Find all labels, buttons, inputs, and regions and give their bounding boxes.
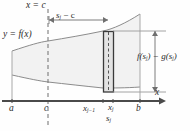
tick-label-x-j: xj <box>108 103 114 113</box>
area-between-curves-figure: x = c y = f(x) sj − c f(sj) − g(sj) x a … <box>0 0 190 131</box>
tick-label-s-j: sj <box>106 114 111 124</box>
label-sj-minus-c: sj − c <box>56 11 75 21</box>
label-x-equals-c: x = c <box>26 1 46 11</box>
label-fsj-minus-gsj: f(sj) − g(sj) <box>137 52 177 62</box>
tick-label-x-j-minus-1: xj−1 <box>83 104 95 114</box>
label-y-equals-fx: y = f(x) <box>3 30 32 40</box>
tick-label-c: c <box>44 104 48 114</box>
tick-label-b: b <box>136 104 141 114</box>
tick-label-a: a <box>9 104 14 114</box>
label-axis-x: x <box>155 88 159 98</box>
